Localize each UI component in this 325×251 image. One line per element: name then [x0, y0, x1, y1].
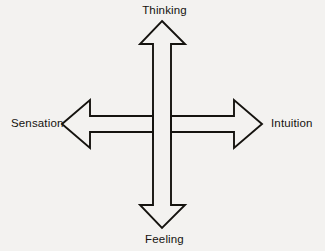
axis-label-sensation: Sensation [11, 118, 64, 130]
diagram-canvas: Thinking Feeling Sensation Intuition [0, 0, 325, 251]
axis-label-feeling: Feeling [2, 234, 325, 246]
axis-label-thinking: Thinking [2, 5, 325, 17]
axis-label-intuition: Intuition [271, 118, 313, 130]
